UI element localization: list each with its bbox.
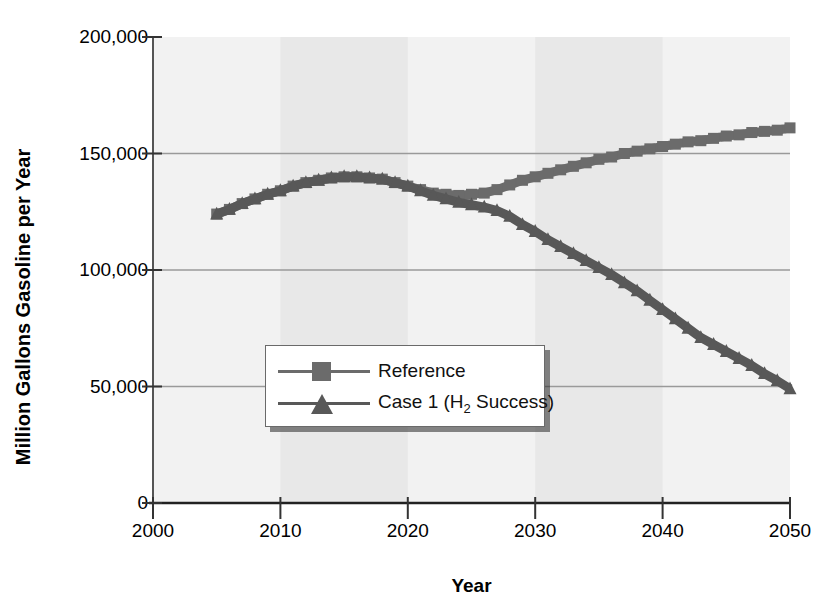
square-marker-icon bbox=[581, 157, 592, 168]
square-marker-icon bbox=[785, 122, 796, 133]
x-tick-label-2020: 2020 bbox=[363, 520, 453, 542]
square-marker-icon bbox=[670, 139, 681, 150]
square-marker-icon bbox=[619, 148, 630, 159]
square-marker-icon bbox=[542, 168, 553, 179]
x-tick-label-2040: 2040 bbox=[618, 520, 708, 542]
x-axis-title: Year bbox=[153, 575, 790, 597]
square-marker-icon bbox=[568, 161, 579, 172]
triangle-marker-icon bbox=[311, 394, 333, 414]
square-marker-icon bbox=[555, 164, 566, 175]
legend-label-reference: Reference bbox=[370, 360, 466, 382]
square-marker-icon bbox=[734, 129, 745, 140]
square-marker-icon bbox=[530, 171, 541, 182]
square-marker-icon bbox=[644, 143, 655, 154]
x-tick-label-2050: 2050 bbox=[745, 520, 834, 542]
x-tick-label-2030: 2030 bbox=[490, 520, 580, 542]
legend-label-case1-main: Case 1 (H bbox=[378, 391, 464, 412]
chart-legend: Reference Case 1 (H2 Success) bbox=[265, 345, 545, 427]
square-marker-icon bbox=[657, 141, 668, 152]
square-marker-icon bbox=[593, 154, 604, 165]
square-marker-icon bbox=[683, 136, 694, 147]
x-tick-label-2010: 2010 bbox=[235, 520, 325, 542]
square-marker-icon bbox=[632, 146, 643, 157]
square-marker-icon bbox=[606, 152, 617, 163]
legend-key-reference bbox=[278, 358, 370, 384]
x-tick-label-2000: 2000 bbox=[108, 520, 198, 542]
gasoline-consumption-chart: Million Gallons Gasoline per Year 200,00… bbox=[0, 0, 834, 614]
legend-label-case1: Case 1 (H2 Success) bbox=[370, 391, 554, 416]
legend-item-reference: Reference bbox=[278, 355, 532, 387]
square-marker-icon bbox=[479, 188, 490, 199]
square-marker-icon bbox=[708, 133, 719, 144]
legend-label-case1-subscript: 2 bbox=[464, 400, 471, 415]
square-marker-icon bbox=[772, 125, 783, 136]
square-marker-icon bbox=[759, 126, 770, 137]
square-marker-icon bbox=[312, 362, 331, 381]
square-marker-icon bbox=[721, 131, 732, 142]
legend-item-case1: Case 1 (H2 Success) bbox=[278, 387, 532, 419]
legend-label-case1-tail: Success) bbox=[471, 391, 554, 412]
square-marker-icon bbox=[504, 179, 515, 190]
legend-key-case1 bbox=[278, 390, 370, 416]
square-marker-icon bbox=[695, 135, 706, 146]
square-marker-icon bbox=[517, 175, 528, 186]
square-marker-icon bbox=[746, 127, 757, 138]
square-marker-icon bbox=[491, 184, 502, 195]
